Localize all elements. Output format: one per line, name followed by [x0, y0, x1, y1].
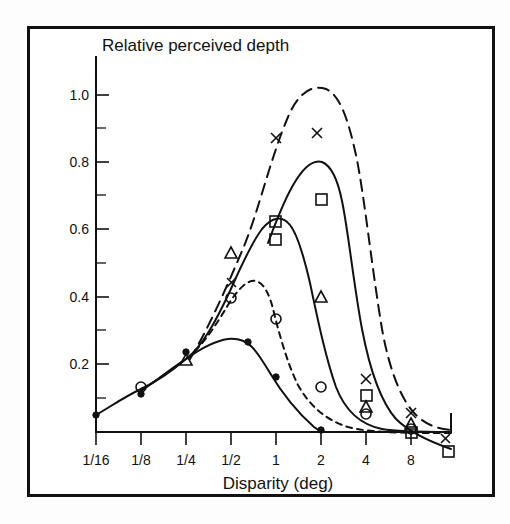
x-axis-title: Disparity (deg): [223, 474, 334, 493]
triangle-series-markers: [180, 247, 417, 429]
y-tick-label-0.8: 0.8: [70, 154, 90, 170]
dot-series-curve: [96, 339, 322, 432]
y-tick-label-0.6: 0.6: [70, 221, 90, 237]
y-tick-label-0.2: 0.2: [70, 356, 90, 372]
cross-series-curve: [190, 88, 451, 430]
y-axis-title: Relative perceived depth: [102, 36, 289, 55]
x-tick-label-1-4: 1/4: [176, 452, 196, 468]
x-axis-line: [96, 414, 451, 432]
x-axis-ticks: [96, 432, 411, 445]
y-tick-label-0.4: 0.4: [70, 289, 90, 305]
cross-series-markers: [227, 128, 450, 443]
x-tick-label-1: 1: [272, 452, 280, 468]
figure-frame: 1.0 0.8 0.6 0.4 0.2 1/16 1/8 1/4 1/2 1: [27, 26, 495, 497]
x-tick-label-2: 2: [317, 452, 325, 468]
x-tick-label-1-16: 1/16: [82, 452, 109, 468]
x-tick-label-4: 4: [362, 452, 370, 468]
dot-series-markers: [93, 339, 324, 433]
chart-canvas: 1.0 0.8 0.6 0.4 0.2 1/16 1/8 1/4 1/2 1: [30, 29, 492, 494]
figure-page: 1.0 0.8 0.6 0.4 0.2 1/16 1/8 1/4 1/2 1: [0, 0, 510, 524]
y-tick-label-1.0: 1.0: [70, 87, 90, 103]
x-tick-label-8: 8: [407, 452, 415, 468]
square-series-curve: [268, 161, 451, 449]
x-tick-label-1-8: 1/8: [131, 452, 151, 468]
x-tick-label-1-2: 1/2: [221, 452, 241, 468]
y-axis-ticks: [96, 95, 109, 398]
